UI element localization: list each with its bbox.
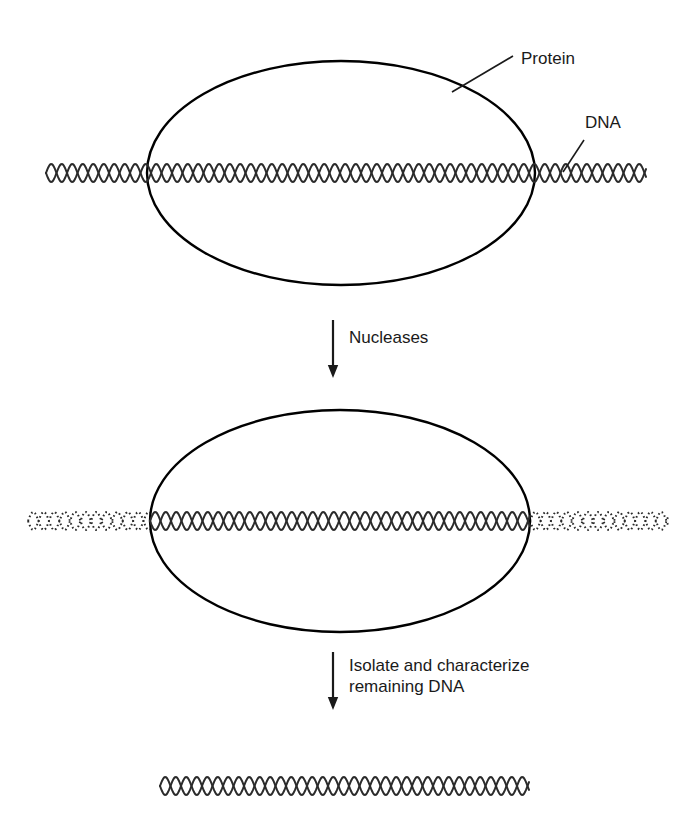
panel-isolated-fragment (160, 777, 529, 795)
dna-helix-top-strand-a (46, 164, 646, 182)
dna-helix-top-strand-b (46, 164, 646, 182)
arrow-isolate (328, 652, 338, 710)
dna-degraded-right-strand-b (530, 512, 668, 530)
arrow-isolate-head (328, 697, 338, 710)
panel-bound-complex (46, 61, 646, 285)
dna-label: DNA (585, 112, 621, 133)
isolate-step-label: Isolate and characterizeremaining DNA (349, 655, 530, 697)
isolate-step-line2: remaining DNA (349, 677, 464, 696)
arrow-nucleases (328, 320, 338, 378)
protein-leader-line (452, 56, 513, 92)
dna-footprinting-diagram: Protein DNA Nucleases Isolate and charac… (0, 0, 698, 832)
isolate-step-line1: Isolate and characterize (349, 656, 530, 675)
arrow-nucleases-head (328, 365, 338, 378)
nucleases-step-label: Nucleases (349, 327, 428, 348)
panel-digested-complex (28, 410, 668, 632)
protein-label: Protein (521, 48, 575, 69)
